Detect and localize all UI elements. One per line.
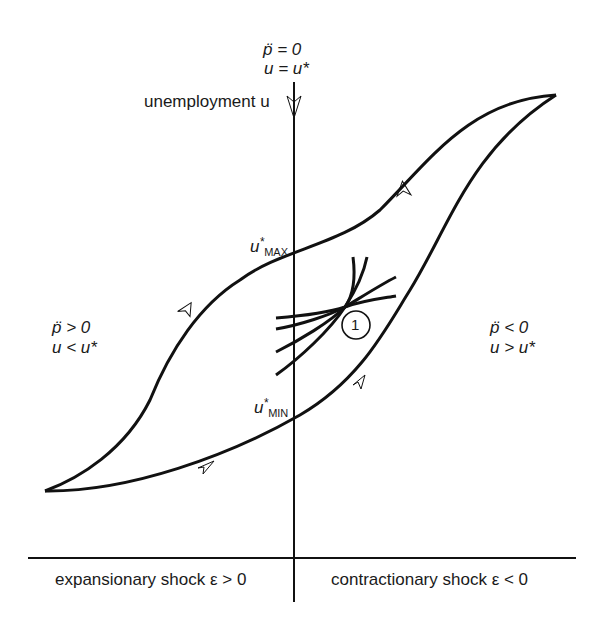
upper-branch-curve (45, 95, 556, 491)
u-min-label: u*MIN (254, 398, 288, 419)
right-region-line2: u > u* (490, 338, 535, 358)
right-region-line1: p̈ < 0 (490, 318, 528, 338)
horizontal-axis-left-label: expansionary shock ε > 0 (55, 570, 246, 590)
left-region-line2: u < u* (52, 338, 97, 358)
vertical-axis-label: unemployment u (144, 92, 270, 112)
lower-branch-curve (45, 95, 556, 491)
top-condition-pdd: p̈ = 0 (263, 40, 301, 60)
diagram-canvas (0, 0, 604, 627)
u-max-label: u*MAX (250, 237, 288, 258)
top-condition-u: u = u* (264, 59, 309, 79)
u-min-sub: MIN (268, 407, 288, 419)
u-max-sub: MAX (264, 246, 288, 258)
hysteresis-figure: p̈ = 0 u = u* unemployment u u*MAX u*MIN… (0, 0, 604, 627)
arrow-upper-left-icon (178, 299, 197, 319)
arrow-upper-right-icon (395, 180, 411, 197)
arrow-lower-left-icon (198, 461, 214, 474)
arrow-lower-right-icon (353, 375, 365, 389)
point-1-label: 1 (351, 315, 359, 335)
horizontal-axis-right-label: contractionary shock ε < 0 (331, 570, 528, 590)
left-region-line1: p̈ > 0 (52, 318, 90, 338)
